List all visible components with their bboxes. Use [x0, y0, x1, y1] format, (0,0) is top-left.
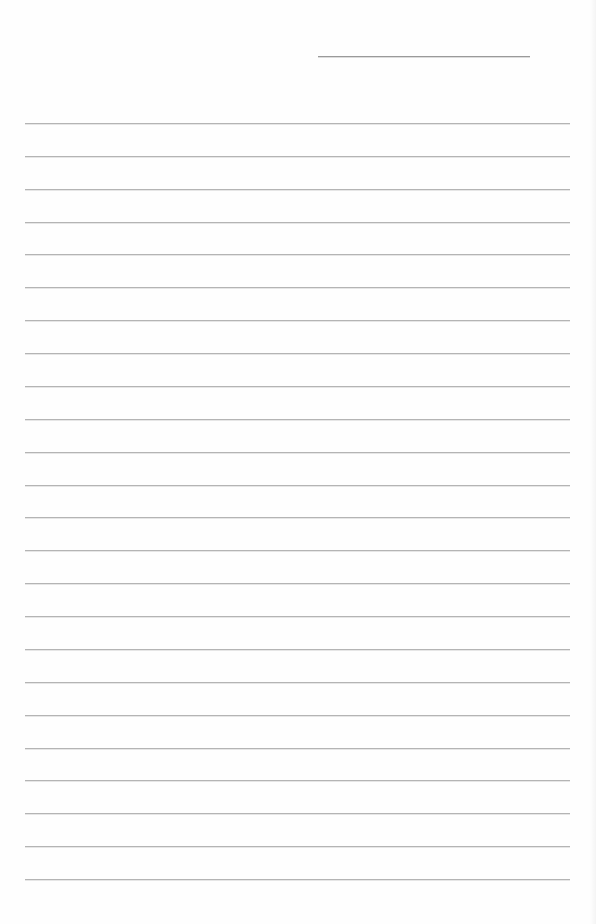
ruled-line: [25, 156, 570, 158]
ruled-line: [25, 123, 570, 125]
ruled-line: [25, 287, 570, 289]
ruled-line: [25, 419, 570, 421]
ruled-line: [25, 517, 570, 519]
ruled-line: [25, 715, 570, 717]
ruled-line: [25, 748, 570, 750]
ruled-line: [25, 320, 570, 322]
ruled-line: [25, 386, 570, 388]
ruled-line: [25, 254, 570, 256]
ruled-line: [25, 550, 570, 552]
ruled-line: [25, 813, 570, 815]
ruled-line: [25, 780, 570, 782]
ruled-line: [25, 682, 570, 684]
ruled-line: [25, 616, 570, 618]
header-name-line: [318, 56, 530, 58]
ruled-line: [25, 452, 570, 454]
ruled-line: [25, 222, 570, 224]
ruled-line: [25, 189, 570, 191]
ruled-line: [25, 649, 570, 651]
ruled-line: [25, 583, 570, 585]
ruled-line: [25, 879, 570, 881]
ruled-line: [25, 846, 570, 848]
ruled-line: [25, 353, 570, 355]
lined-paper-page: [0, 0, 596, 924]
ruled-line: [25, 485, 570, 487]
page-edge-shadow: [590, 0, 596, 924]
